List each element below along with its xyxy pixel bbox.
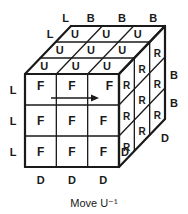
caption: Move U⁻¹ — [70, 197, 118, 209]
front-sticker-label: F — [37, 145, 44, 159]
right-sticker-label: R — [154, 110, 162, 121]
right-sticker-label: R — [138, 95, 146, 106]
edge-label-left: L — [10, 84, 17, 96]
front-sticker-label: F — [106, 79, 113, 93]
edge-label-down-right: D — [121, 146, 129, 158]
up-sticker-label: U — [40, 60, 48, 72]
edge-label-down: D — [37, 174, 45, 186]
front-sticker-label: F — [100, 114, 107, 128]
right-sticker-label: R — [123, 80, 131, 91]
edge-label-down-right: D — [161, 132, 169, 144]
front-sticker-label: F — [68, 145, 75, 159]
edge-label-back: B — [118, 12, 126, 24]
right-sticker-label: R — [138, 126, 146, 137]
cube-figure: FFFFFFFFFUUUUUUUUURRRRRRRRRLLLDDDLLBBBBB… — [0, 0, 188, 214]
edge-label-back: B — [149, 12, 157, 24]
edge-label-back-right: B — [170, 97, 178, 109]
edge-label-left: L — [10, 146, 17, 158]
up-sticker-label: U — [56, 44, 64, 56]
edge-label-back-right: B — [170, 69, 178, 81]
front-sticker-label: F — [37, 79, 44, 93]
up-sticker-label: U — [134, 28, 142, 40]
front-sticker-label: F — [68, 114, 75, 128]
front-sticker-label: F — [37, 114, 44, 128]
edge-label-left-up: L — [47, 28, 54, 40]
up-sticker-label: U — [103, 60, 111, 72]
right-sticker-label: R — [123, 111, 131, 122]
edge-label-down: D — [68, 174, 76, 186]
up-sticker-label: U — [87, 44, 95, 56]
front-sticker-label: F — [68, 79, 75, 93]
edge-label-left-up: L — [62, 12, 69, 24]
cube-diagram: FFFFFFFFFUUUUUUUUURRRRRRRRRLLLDDDLLBBBBB… — [0, 0, 188, 214]
edge-label-down: D — [99, 174, 107, 186]
right-sticker-label: R — [138, 64, 146, 75]
up-sticker-label: U — [71, 28, 79, 40]
right-sticker-label: R — [154, 48, 162, 59]
up-sticker-label: U — [72, 60, 80, 72]
front-sticker-label: F — [100, 145, 107, 159]
right-sticker-label: R — [154, 79, 162, 90]
arrow-right-icon — [91, 95, 99, 102]
up-sticker-label: U — [118, 44, 126, 56]
up-sticker-label: U — [102, 28, 110, 40]
edge-label-left: L — [10, 115, 17, 127]
edge-label-back: B — [87, 12, 95, 24]
